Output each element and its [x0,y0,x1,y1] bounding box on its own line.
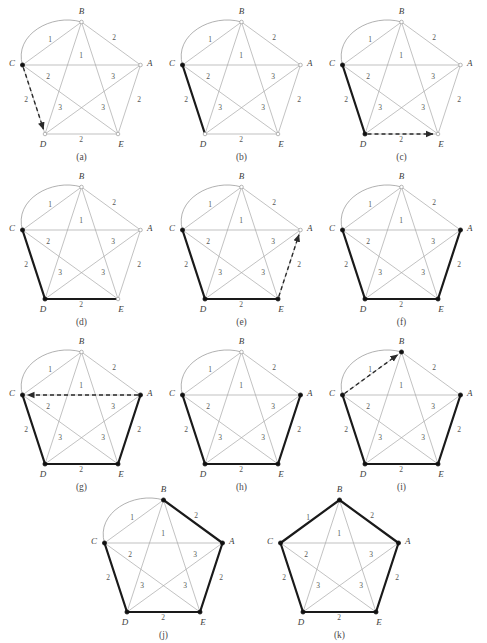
weight-label-ce: 2 [46,237,50,246]
vertex-node-a [298,393,302,397]
edge-b-a [242,22,301,65]
weight-label-de: 2 [399,300,403,309]
weight-label-ba: 2 [272,198,276,207]
vertex-node-b [399,350,403,354]
vertex-label-b: B [79,171,85,181]
weight-label-de: 2 [337,613,341,622]
vertex-label-a: A [306,58,313,68]
weight-label-ad: 3 [111,72,115,81]
edge-a-d [45,395,141,464]
weight-label-cd: 2 [184,260,188,269]
figure-pentagon-mst-sequence: 2112222333ABCDE(a)2112222333ABCDE(b)2112… [0,0,487,643]
edge-c-e [105,543,201,612]
edge-b-c [183,187,242,230]
panel-caption-e: (e) [160,317,323,327]
bold-edge-b-c [281,500,340,543]
weight-label-bc: 1 [208,35,212,44]
vertex-node-a [458,393,462,397]
vertex-node-d [203,132,207,136]
vertex-node-c [20,393,24,397]
weight-label-ce: 2 [366,402,370,411]
vertex-label-c: C [329,223,336,233]
edge-c-e [183,395,279,464]
weight-label-ca: 1 [239,51,243,60]
vertex-node-d [203,462,207,466]
panel-j: 2112222333ABCDE [82,478,245,641]
vertex-label-b: B [79,336,85,346]
vertex-label-c: C [169,58,176,68]
weight-label-ea: 2 [457,95,461,104]
edge-b-c [343,22,402,65]
weight-label-cd: 2 [24,260,28,269]
weight-label-be: 3 [101,268,105,277]
vertex-node-c [102,541,106,545]
vertex-node-a [459,63,463,67]
weight-label-bd: 3 [378,433,382,442]
panel-caption-f: (f) [320,317,483,327]
vertex-node-d [363,297,367,301]
vertex-label-c: C [329,58,336,68]
weight-label-ca: 1 [399,51,403,60]
vertex-label-a: A [466,58,473,68]
vertex-node-e [116,297,120,301]
vertex-label-d: D [121,617,129,627]
vertex-label-d: D [39,139,47,149]
weight-label-ca: 1 [161,529,165,538]
weight-label-bc: 1 [368,200,372,209]
edge-c-e [23,395,119,464]
weight-label-de: 2 [79,465,83,474]
edge-a-d [127,543,223,612]
weight-label-cd: 2 [24,95,28,104]
panel-caption-j: (j) [82,630,245,640]
weight-label-bd: 3 [218,268,222,277]
vertex-node-d [301,610,305,614]
weight-label-bc: 1 [48,200,52,209]
vertex-node-e [436,462,440,466]
vertex-node-c [340,63,344,67]
weight-label-ad: 3 [271,237,275,246]
weight-label-bd: 3 [140,581,144,590]
panel-d: 2112222333ABCDE [0,165,163,328]
vertex-node-a [299,228,303,232]
weight-label-bd: 3 [218,103,222,112]
weight-label-ce: 2 [46,72,50,81]
panel-g: 2112222333ABCDE [0,330,163,493]
edge-c-e [343,395,439,464]
weight-label-bd: 3 [316,581,320,590]
weight-label-cd: 2 [106,573,110,582]
weight-label-de: 2 [79,135,83,144]
weight-label-ad: 3 [431,237,435,246]
weight-label-be: 3 [421,268,425,277]
vertex-label-c: C [169,388,176,398]
vertex-node-c [180,393,184,397]
vertex-label-a: A [146,388,153,398]
weight-label-ce: 2 [128,550,132,559]
edge-c-e [183,230,279,299]
edge-a-d [365,395,461,464]
panel-caption-b: (b) [160,152,323,162]
weight-label-ea: 2 [137,95,141,104]
edge-b-c [23,22,82,65]
weight-label-ea: 2 [219,573,223,582]
vertex-node-c [20,228,24,232]
weight-label-ca: 1 [399,381,403,390]
weight-label-ce: 2 [206,237,210,246]
vertex-node-b [80,20,84,24]
panel-h: 2112222333ABCDE [160,330,323,493]
vertex-node-e [276,132,280,136]
vertex-label-e: E [437,139,444,149]
vertex-node-e [198,610,202,614]
edge-c-e [183,65,279,134]
weight-label-ba: 2 [194,511,198,520]
weight-label-be: 3 [101,433,105,442]
vertex-node-b [400,20,404,24]
vertex-node-d [363,462,367,466]
weight-label-ea: 2 [297,425,301,434]
edge-c-e [281,543,377,612]
weight-label-ba: 2 [112,363,116,372]
weight-label-cd: 2 [184,425,188,434]
bold-edge-a-b [164,500,223,543]
weight-label-cd: 2 [184,95,188,104]
vertex-label-b: B [239,6,245,16]
weight-label-de: 2 [399,135,403,144]
